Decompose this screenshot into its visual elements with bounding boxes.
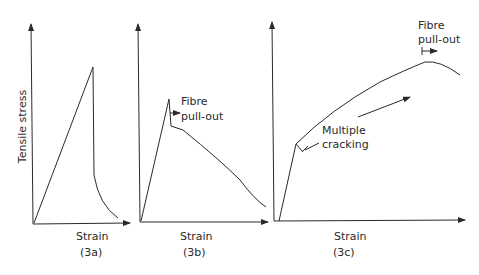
panel-a-x-label: Strain <box>76 230 109 243</box>
y-axis-label: Tensile stress <box>16 90 29 163</box>
panel-b-note-line2: pull-out <box>181 110 223 123</box>
panel-b-note-line1: Fibre <box>181 95 208 108</box>
panel-c-note1-line1: Multiple <box>322 124 366 137</box>
panel-b-id: (3b) <box>183 246 206 259</box>
panel-c-note1-line2: cracking <box>322 138 369 151</box>
panel-b-axes <box>138 24 268 222</box>
panel-a-id: (3a) <box>80 246 102 259</box>
panel-b-x-label: Strain <box>180 230 213 243</box>
panel-b-curve <box>141 99 183 221</box>
panel-c-note2-line1: Fibre <box>418 19 445 32</box>
diagram-svg <box>0 0 479 275</box>
panel-c-note2-line2: pull-out <box>418 33 460 46</box>
panel-c-x-label: Strain <box>334 230 367 243</box>
panel-a-curve <box>34 67 94 223</box>
panel-c-axes <box>272 22 465 221</box>
panel-c-curve <box>279 144 296 221</box>
stress-strain-diagram: Tensile stress Strain (3a) Fibre pull-ou… <box>0 0 479 275</box>
panel-c-id: (3c) <box>333 246 355 259</box>
panel-a-axes <box>31 24 130 224</box>
